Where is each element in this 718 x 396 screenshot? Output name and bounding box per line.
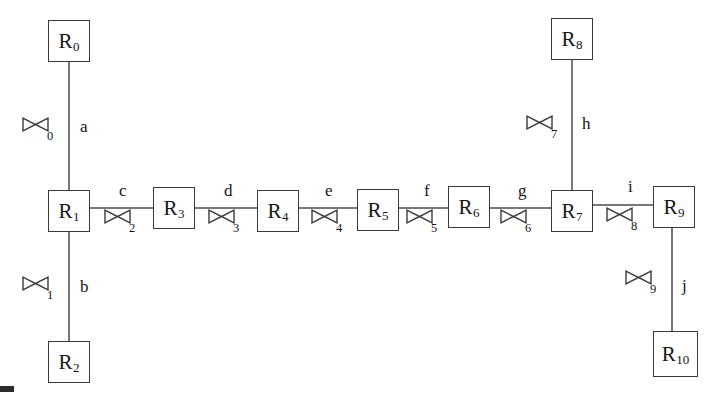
node-base-letter: R: [662, 342, 676, 366]
node-r7[interactable]: R7: [551, 190, 593, 232]
node-subscript: 3: [178, 206, 185, 221]
node-base-letter: R: [562, 199, 576, 223]
valve-subscript-1: 1: [47, 289, 53, 302]
node-r5[interactable]: R5: [357, 189, 399, 231]
node-r10[interactable]: R10: [653, 331, 698, 377]
node-label-r4: R4: [268, 201, 289, 222]
valve-left-triangle: [527, 116, 540, 129]
edge-label-b: b: [80, 278, 89, 295]
valve-left-triangle: [23, 277, 36, 290]
node-r3[interactable]: R3: [153, 187, 195, 229]
valve-icon-2[interactable]: [104, 209, 131, 224]
node-base-letter: R: [562, 27, 576, 51]
valve-left-triangle: [312, 210, 325, 223]
edge-label-a: a: [80, 118, 88, 135]
node-subscript: 10: [676, 352, 689, 367]
valve-subscript-8: 8: [631, 220, 637, 233]
edge-label-h: h: [582, 115, 591, 132]
valve-left-triangle: [105, 210, 118, 223]
node-label-r6: R6: [459, 197, 480, 218]
node-base-letter: R: [268, 199, 282, 223]
valve-icon-9[interactable]: [625, 270, 652, 285]
valve-icon-1[interactable]: [22, 276, 49, 291]
valve-left-triangle: [407, 210, 420, 223]
valve-icon-8[interactable]: [606, 207, 633, 222]
node-base-letter: R: [59, 29, 73, 53]
node-base-letter: R: [368, 198, 382, 222]
edge-label-j: j: [682, 277, 687, 294]
node-subscript: 7: [576, 209, 583, 224]
valve-subscript-2: 2: [129, 222, 135, 235]
valve-left-triangle: [607, 208, 620, 221]
valve-icon-0[interactable]: [22, 117, 49, 132]
node-base-letter: R: [164, 196, 178, 220]
edge-label-i: i: [628, 178, 633, 195]
node-label-r2: R2: [59, 352, 80, 373]
valve-subscript-4: 4: [336, 222, 342, 235]
node-r9[interactable]: R9: [653, 186, 695, 228]
node-label-r8: R8: [562, 29, 583, 50]
valve-subscript-5: 5: [431, 222, 437, 235]
edge-label-d: d: [224, 182, 233, 199]
valve-left-triangle: [626, 271, 639, 284]
pipe-network-diagram: R0R1R2R3R4R5R6R7R8R9R10 0123456789 abcde…: [0, 0, 718, 396]
node-subscript: 9: [678, 205, 685, 220]
node-r0[interactable]: R0: [48, 20, 90, 62]
corner-mark: [0, 386, 14, 392]
node-r1[interactable]: R1: [48, 190, 90, 232]
edge-label-c: c: [119, 182, 127, 199]
valve-icon-4[interactable]: [311, 209, 338, 224]
valve-icon-5[interactable]: [406, 209, 433, 224]
valve-subscript-3: 3: [233, 222, 239, 235]
node-subscript: 6: [473, 205, 480, 220]
valve-icon-7[interactable]: [526, 115, 553, 130]
valve-subscript-7: 7: [551, 128, 557, 141]
valve-left-triangle: [501, 210, 514, 223]
node-base-letter: R: [459, 195, 473, 219]
node-label-r5: R5: [368, 200, 389, 221]
node-base-letter: R: [59, 199, 73, 223]
node-label-r0: R0: [59, 31, 80, 52]
node-subscript: 0: [73, 39, 80, 54]
edge-label-e: e: [325, 182, 333, 199]
valve-icon-3[interactable]: [208, 209, 235, 224]
node-label-r9: R9: [664, 197, 685, 218]
valve-left-triangle: [23, 118, 36, 131]
valve-subscript-6: 6: [525, 222, 531, 235]
node-r8[interactable]: R8: [551, 18, 593, 60]
node-base-letter: R: [664, 195, 678, 219]
edge-label-g: g: [518, 182, 527, 199]
node-subscript: 2: [73, 360, 80, 375]
valve-icon-6[interactable]: [500, 209, 527, 224]
valve-subscript-0: 0: [47, 130, 53, 143]
edge-label-f: f: [424, 182, 430, 199]
node-r4[interactable]: R4: [257, 190, 299, 232]
node-base-letter: R: [59, 350, 73, 374]
node-subscript: 4: [282, 209, 289, 224]
node-label-r10: R10: [662, 344, 690, 365]
node-subscript: 1: [73, 209, 80, 224]
node-subscript: 5: [382, 208, 389, 223]
node-r2[interactable]: R2: [48, 341, 90, 383]
node-label-r3: R3: [164, 198, 185, 219]
node-label-r7: R7: [562, 201, 583, 222]
node-subscript: 8: [576, 37, 583, 52]
valve-left-triangle: [209, 210, 222, 223]
valve-subscript-9: 9: [650, 283, 656, 296]
node-label-r1: R1: [59, 201, 80, 222]
node-r6[interactable]: R6: [448, 186, 490, 228]
